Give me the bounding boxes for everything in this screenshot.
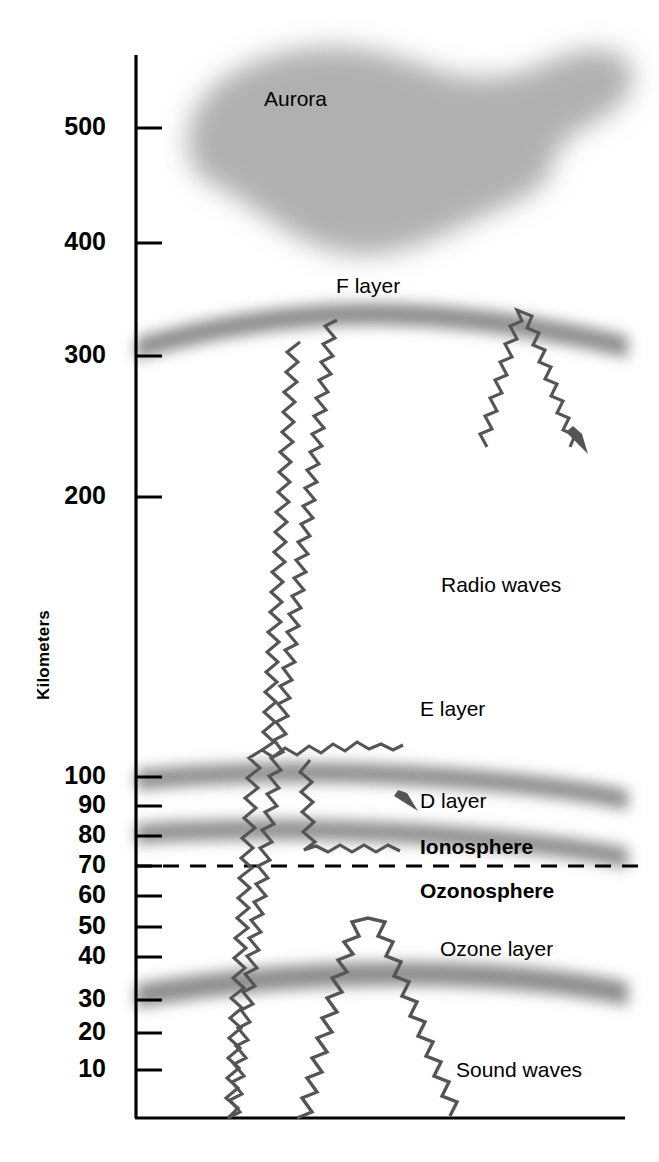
ionosphere-label: Ionosphere <box>420 836 533 857</box>
y-tick-label-50: 50 <box>28 913 106 938</box>
d-layer-band <box>136 820 628 869</box>
sound-wave-path <box>297 918 457 1118</box>
ozone-layer-label: Ozone layer <box>440 938 553 959</box>
y-axis-ticks <box>136 128 162 1070</box>
aurora-region <box>188 47 634 255</box>
y-tick-label-10: 10 <box>28 1056 106 1081</box>
ozone-layer-band <box>136 962 628 1008</box>
radio-wave-e-layer-arrowhead <box>394 790 418 811</box>
aurora-label: Aurora <box>264 88 327 109</box>
radio-waves-label: Radio waves <box>441 574 561 595</box>
ozonosphere-label: Ozonosphere <box>420 880 554 901</box>
y-tick-label-500: 500 <box>28 114 106 139</box>
radio-wave-f-arrowhead <box>566 426 588 454</box>
y-tick-label-80: 80 <box>28 822 106 847</box>
y-tick-label-30: 30 <box>28 986 106 1011</box>
y-tick-label-400: 400 <box>28 229 106 254</box>
y-tick-label-90: 90 <box>28 792 106 817</box>
y-tick-label-70: 70 <box>28 852 106 877</box>
radio-wave-main <box>228 320 337 1118</box>
y-axis-title: Kilometers <box>34 610 54 700</box>
y-tick-label-100: 100 <box>28 763 106 788</box>
y-tick-label-300: 300 <box>28 342 106 367</box>
f-layer-label: F layer <box>336 275 400 296</box>
y-tick-label-20: 20 <box>28 1019 106 1044</box>
d-layer-label: D layer <box>420 790 487 811</box>
sound-waves-label: Sound waves <box>456 1059 582 1080</box>
y-tick-label-200: 200 <box>28 483 106 508</box>
f-layer-band <box>136 303 628 360</box>
e-layer-label: E layer <box>420 698 485 719</box>
atmosphere-layers-diagram: Kilometers 500 400 300 200 100 90 80 70 … <box>0 0 659 1162</box>
y-tick-label-40: 40 <box>28 943 106 968</box>
y-tick-label-60: 60 <box>28 882 106 907</box>
e-layer-band <box>136 763 628 810</box>
